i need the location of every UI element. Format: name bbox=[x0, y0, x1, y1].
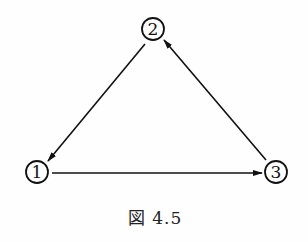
edge-2-to-1 bbox=[48, 44, 145, 161]
figure-caption: 図 4.5 bbox=[128, 208, 182, 228]
graph-diagram: 1 2 3 図 4.5 bbox=[0, 0, 308, 242]
node-3: 3 bbox=[265, 161, 287, 183]
node-2-label: 2 bbox=[148, 19, 159, 39]
node-2: 2 bbox=[142, 18, 164, 40]
node-1: 1 bbox=[26, 161, 48, 183]
node-1-label: 1 bbox=[32, 162, 43, 182]
node-3-label: 3 bbox=[271, 162, 282, 182]
edge-3-to-2 bbox=[164, 40, 266, 160]
